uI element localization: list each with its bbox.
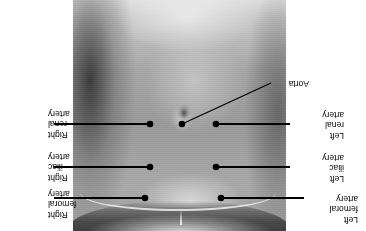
marker-dot-group xyxy=(142,121,225,202)
marker-dot-right-femoral-artery xyxy=(142,195,149,202)
label-line: artery xyxy=(48,109,104,120)
label-line: iliac xyxy=(48,162,104,173)
label-line: Right xyxy=(48,130,104,141)
label-line: artery xyxy=(48,189,104,200)
label-line: Right xyxy=(48,173,104,184)
label-line: Aorta xyxy=(275,79,309,90)
marker-dot-aorta xyxy=(179,121,186,128)
label-line: artery xyxy=(294,153,344,164)
label-line: femoral xyxy=(304,204,358,215)
anatomy-figure: Left femoral artery Left iliac artery Le… xyxy=(0,0,366,231)
marker-dot-left-renal-artery xyxy=(213,121,220,128)
label-left-renal-artery: Left renal artery xyxy=(294,110,344,142)
label-right-femoral-artery: Right femoral artery xyxy=(48,189,104,221)
label-line: Left xyxy=(304,215,358,226)
label-line: femoral xyxy=(48,199,104,210)
leader-line-aorta xyxy=(182,83,271,124)
label-line: Right xyxy=(48,210,104,221)
label-right-iliac-artery: Right iliac artery xyxy=(48,152,104,184)
label-left-femoral-artery: Left femoral artery xyxy=(304,194,358,226)
label-aorta: Aorta xyxy=(275,79,309,90)
marker-dot-right-renal-artery xyxy=(147,121,154,128)
label-line: renal xyxy=(48,119,104,130)
label-line: artery xyxy=(48,152,104,163)
label-line: Left xyxy=(294,131,344,142)
marker-dot-left-femoral-artery xyxy=(218,195,225,202)
label-line: artery xyxy=(294,110,344,121)
label-line: renal xyxy=(294,120,344,131)
label-line: iliac xyxy=(294,163,344,174)
label-right-renal-artery: Right renal artery xyxy=(48,109,104,141)
marker-dot-left-iliac-artery xyxy=(213,164,220,171)
label-left-iliac-artery: Left iliac artery xyxy=(294,153,344,185)
label-line: artery xyxy=(304,194,358,205)
marker-dot-right-iliac-artery xyxy=(147,164,154,171)
label-line: Left xyxy=(294,174,344,185)
